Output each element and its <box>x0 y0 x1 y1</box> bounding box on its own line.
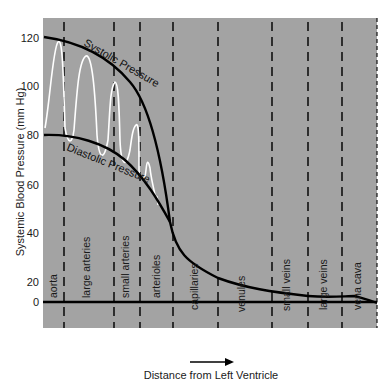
y-tick-40: 40 <box>27 227 39 239</box>
segment-label-venules: venules <box>235 276 247 312</box>
segment-label-small-veins: small veins <box>280 259 292 311</box>
y-tick-0: 0 <box>33 296 39 308</box>
segment-label-vena-cava: vena cava <box>351 262 363 310</box>
direction-arrow-icon <box>190 358 234 366</box>
y-tick-60: 60 <box>27 179 39 191</box>
segment-label-capillaries: capillaries <box>188 263 200 310</box>
blood-pressure-chart: 120 100 80 60 40 20 0 Systemic Blood Pre… <box>0 0 392 389</box>
segment-label-large-arteries: large arteries <box>80 237 92 298</box>
segment-label-arterioles: arterioles <box>150 255 162 298</box>
y-axis-title: Systemic Blood Pressure (mm Hg) <box>14 88 26 257</box>
x-axis-title: Distance from Left Ventricle <box>144 369 279 381</box>
segment-label-large-veins: large veins <box>317 259 329 310</box>
segment-label-small-arteries: small arteries <box>119 236 131 298</box>
y-tick-20: 20 <box>27 276 39 288</box>
y-tick-80: 80 <box>27 129 39 141</box>
y-tick-120: 120 <box>21 32 39 44</box>
segment-label-aorta: aorta <box>47 274 59 298</box>
